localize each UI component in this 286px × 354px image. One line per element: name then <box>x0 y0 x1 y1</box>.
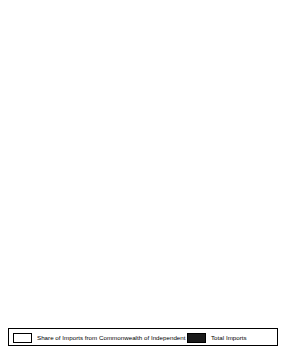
plot-area-2 <box>0 130 286 248</box>
chart-panel-1 <box>0 6 286 124</box>
legend-swatch-total <box>187 333 206 343</box>
legend-entry-share: Share of Imports from Commonwealth of In… <box>13 332 205 343</box>
plot-area-1 <box>0 6 286 124</box>
legend-swatch-share <box>13 333 32 343</box>
plot-area-3 <box>0 256 286 322</box>
legend-entry-total: Total Imports <box>187 332 247 343</box>
chart-panel-3 <box>0 256 286 322</box>
legend-label-share: Share of Imports from Commonwealth of In… <box>37 334 205 341</box>
chart-panel-2 <box>0 130 286 248</box>
figure-root: Share of Imports from Commonwealth of In… <box>0 0 286 354</box>
legend-label-total: Total Imports <box>211 334 247 341</box>
legend: Share of Imports from Commonwealth of In… <box>8 328 278 346</box>
